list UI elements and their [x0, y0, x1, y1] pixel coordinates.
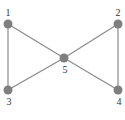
node-3: [4, 86, 13, 95]
node-5: [60, 54, 69, 63]
node-label-1: 1: [6, 7, 11, 18]
node-label-3: 3: [7, 96, 12, 107]
edge-1-5: [8, 24, 64, 58]
node-2: [114, 20, 123, 29]
node-4: [114, 86, 123, 95]
nodes: [4, 20, 123, 95]
edge-2-5: [64, 24, 118, 58]
node-label-2: 2: [116, 7, 121, 18]
node-1: [4, 20, 13, 29]
node-label-4: 4: [117, 96, 122, 107]
edge-4-5: [64, 58, 118, 90]
node-label-5: 5: [63, 64, 68, 75]
graph-diagram: 12345: [0, 0, 125, 120]
edge-3-5: [8, 58, 64, 90]
